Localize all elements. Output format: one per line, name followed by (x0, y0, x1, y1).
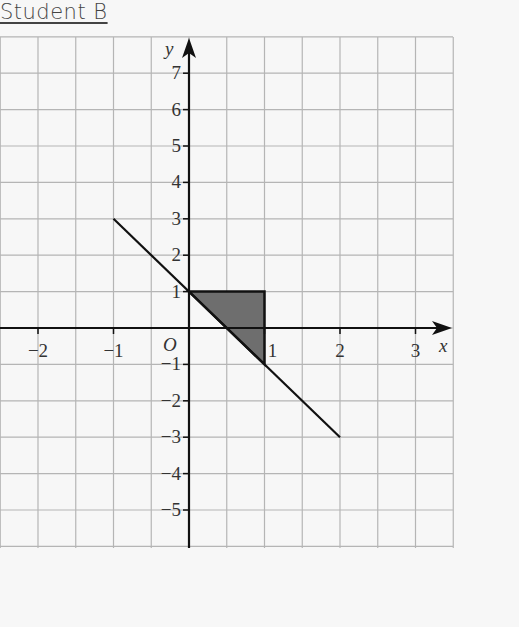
y-tick-label: 1 (172, 281, 182, 302)
y-tick-label: 5 (172, 135, 182, 156)
y-tick-label: −1 (161, 353, 181, 374)
y-tick-label: −5 (161, 499, 181, 520)
origin-label: O (163, 334, 177, 355)
y-axis-label: y (163, 38, 174, 59)
y-tick-label: 4 (172, 171, 182, 192)
x-tick-label: 2 (335, 340, 345, 361)
y-tick-label: 3 (172, 208, 182, 229)
x-tick-label: −1 (103, 340, 123, 361)
x-tick-label: 3 (411, 340, 421, 361)
y-tick-label: 2 (172, 244, 182, 265)
x-axis-label: x (438, 335, 448, 356)
y-tick-label: 7 (172, 62, 182, 83)
y-tick-label: −2 (161, 390, 181, 411)
y-tick-label: 6 (172, 99, 182, 120)
x-tick-label: −2 (28, 340, 48, 361)
y-tick-label: −4 (161, 463, 182, 484)
coordinate-grid-chart: −2−11237654321−1−2−3−4−5xyO (0, 0, 519, 627)
x-tick-label: 1 (268, 340, 278, 361)
y-tick-label: −3 (161, 426, 181, 447)
